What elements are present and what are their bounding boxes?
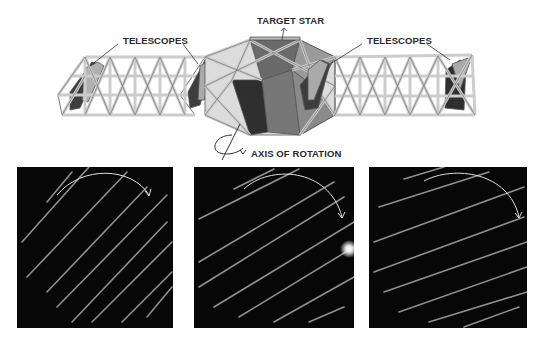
label-telescopes-right: TELESCOPES (367, 35, 432, 46)
label-axis-of-rotation: AXIS OF ROTATION (251, 148, 341, 159)
fringe-lines (22, 167, 172, 322)
fringe-lines (199, 169, 354, 322)
label-target-star: TARGET STAR (257, 15, 324, 26)
rotation-arrow (244, 174, 342, 217)
rotation-arrow (424, 173, 519, 217)
fringe-panel-2 (194, 167, 354, 328)
target-star-glow (340, 240, 354, 258)
label-telescopes-left: TELESCOPES (123, 35, 188, 46)
left-truss-section (58, 57, 214, 115)
fringe-panel-1 (17, 167, 173, 328)
fringe-lines (374, 167, 527, 327)
rotation-arrow (57, 173, 149, 195)
fringe-panel-3 (369, 167, 527, 328)
